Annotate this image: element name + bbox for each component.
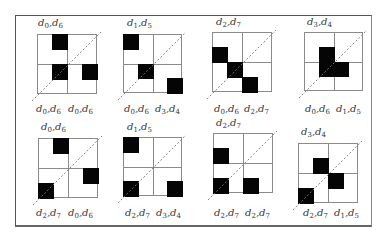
bottom-right-label-second: d7 [258, 103, 269, 114]
panel-3-bottom-right-label: d2,d7 [244, 104, 269, 116]
diagonal-dashed-line [124, 35, 181, 92]
bottom-right-label-second: d4 [169, 103, 180, 114]
top-label-second: d4 [315, 126, 326, 137]
panel-5-bottom-right-label: d0,d6 [68, 208, 93, 220]
bottom-right-label-first: d2 [245, 207, 256, 218]
bottom-left-label-second: d7 [228, 207, 239, 218]
panel-6-bottom-right-label: d3,d4 [156, 208, 181, 220]
bottom-right-label-second: d6 [82, 207, 93, 218]
panel-1-bottom-left-label: d0,d6 [36, 104, 61, 116]
bottom-left-label-second: d6 [228, 103, 239, 114]
top-label-first: d1 [127, 121, 138, 132]
top-label-first: d0 [38, 17, 49, 28]
bottom-right-label-first: d1 [336, 103, 347, 114]
panel-1-top-label: d0,d6 [38, 18, 63, 30]
panel-1-bottom-right-label: d0,d6 [68, 104, 93, 116]
bottom-right-label-second: d5 [350, 103, 361, 114]
panel-7-bottom-left-label: d2,d7 [214, 208, 239, 220]
top-label-first: d3 [307, 16, 318, 27]
bottom-right-label-first: d0 [68, 207, 79, 218]
panel-3-bottom-left-label: d0,d6 [214, 104, 239, 116]
panel-4-bottom-left-label: d0,d6 [305, 104, 330, 116]
panel-6-bottom-left-label: d2,d7 [125, 208, 150, 220]
bottom-left-label-second: d7 [317, 207, 328, 218]
top-label-second: d5 [141, 121, 152, 132]
top-label-first: d1 [127, 17, 138, 28]
top-label-second: d6 [52, 17, 63, 28]
bottom-left-label-first: d0 [124, 103, 135, 114]
diagonal-dashed-line [38, 35, 96, 93]
panel-2-top-label: d1,d5 [127, 18, 152, 30]
bottom-right-label-first: d3 [155, 103, 166, 114]
top-label-second: d7 [230, 16, 241, 27]
diagonal-dashed-line [299, 144, 357, 202]
bottom-right-label-second: d7 [259, 207, 270, 218]
panel-4-top-label: d3,d4 [307, 17, 332, 29]
diagonal-dashed-line [213, 33, 271, 91]
top-label-second: d5 [141, 17, 152, 28]
bottom-right-label-first: d0 [68, 103, 79, 114]
top-label-first: d2 [216, 117, 227, 128]
bottom-right-label-first: d2 [244, 103, 255, 114]
panel-6-grid [123, 137, 182, 196]
panel-7-top-label: d2,d7 [216, 118, 241, 130]
panel-2-grid [123, 34, 182, 93]
bottom-right-label-second: d6 [82, 103, 93, 114]
panel-4-grid [304, 32, 363, 91]
panel-5-grid [38, 138, 98, 198]
panel-2-bottom-left-label: d0,d6 [124, 104, 149, 116]
panel-8-top-label: d3,d4 [301, 127, 326, 139]
diagonal-dashed-line [124, 138, 181, 195]
bottom-right-label-first: d1 [334, 207, 345, 218]
bottom-left-label-first: d2 [214, 207, 225, 218]
top-label-first: d3 [301, 126, 312, 137]
bottom-left-label-second: d7 [50, 207, 61, 218]
panel-8-bottom-right-label: d1,d5 [334, 208, 359, 220]
panel-4-bottom-right-label: d1,d5 [336, 104, 361, 116]
bottom-left-label-second: d7 [139, 207, 150, 218]
panel-3-top-label: d2,d7 [216, 17, 241, 29]
bottom-left-label-first: d0 [36, 103, 47, 114]
bottom-right-label-second: d4 [170, 207, 181, 218]
panel-8-bottom-left-label: d2,d7 [303, 208, 328, 220]
panel-8-grid [298, 143, 358, 203]
panel-3-grid [212, 32, 272, 92]
panel-7-bottom-right-label: d2,d7 [245, 208, 270, 220]
panel-5-top-label: d0,d6 [41, 122, 66, 134]
diagonal-dashed-line [39, 139, 97, 197]
bottom-left-label-second: d6 [138, 103, 149, 114]
diagonal-dashed-line [214, 134, 272, 192]
bottom-left-label-second: d6 [319, 103, 330, 114]
panel-5-bottom-left-label: d2,d7 [36, 208, 61, 220]
bottom-left-label-first: d2 [125, 207, 136, 218]
bottom-right-label-first: d3 [156, 207, 167, 218]
bottom-left-label-first: d2 [303, 207, 314, 218]
top-label-first: d0 [41, 121, 52, 132]
bottom-left-label-first: d0 [214, 103, 225, 114]
bottom-left-label-first: d0 [305, 103, 316, 114]
top-label-second: d6 [55, 121, 66, 132]
panel-6-top-label: d1,d5 [127, 122, 152, 134]
top-label-second: d7 [230, 117, 241, 128]
top-label-second: d4 [321, 16, 332, 27]
bottom-left-label-second: d6 [50, 103, 61, 114]
diagonal-dashed-line [305, 33, 362, 90]
panel-1-grid [37, 34, 97, 94]
bottom-right-label-second: d5 [348, 207, 359, 218]
top-label-first: d2 [216, 16, 227, 27]
bottom-left-label-first: d2 [36, 207, 47, 218]
panel-2-bottom-right-label: d3,d4 [155, 104, 180, 116]
panel-7-grid [213, 133, 273, 193]
